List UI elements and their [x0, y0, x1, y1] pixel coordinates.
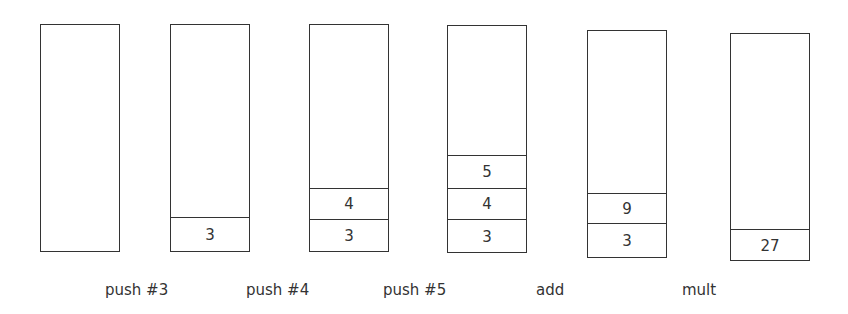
stack-after-push-5: 5 4 3: [447, 25, 527, 253]
stack-cell: 4: [448, 188, 526, 219]
stack-after-add: 9 3: [587, 30, 667, 258]
operation-label-mult: mult: [682, 281, 716, 299]
stack-cell: 3: [448, 219, 526, 253]
stack-cell: 3: [588, 223, 666, 258]
stack-cell: 27: [731, 229, 809, 261]
stack-cell: 9: [588, 193, 666, 223]
stack-after-push-3: 3: [170, 24, 250, 252]
stack-cell: 5: [448, 155, 526, 188]
stack-initial: [40, 24, 120, 252]
stack-cell: 4: [310, 188, 388, 219]
stack-cell: 3: [171, 217, 249, 252]
operation-label-push-4: push #4: [246, 281, 309, 299]
operation-label-push-5: push #5: [383, 281, 446, 299]
operation-label-add: add: [536, 281, 564, 299]
operation-label-push-3: push #3: [105, 281, 168, 299]
stack-after-mult: 27: [730, 33, 810, 261]
stack-after-push-4: 4 3: [309, 24, 389, 252]
stack-cell: 3: [310, 219, 388, 252]
